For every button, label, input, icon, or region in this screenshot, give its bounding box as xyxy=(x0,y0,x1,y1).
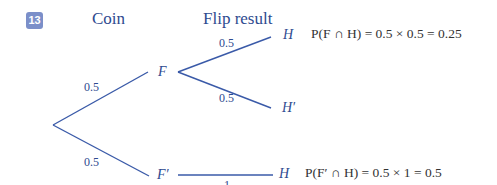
node-Hprime: H′ xyxy=(282,100,295,116)
prob-Fprime-H: 1 xyxy=(224,178,230,185)
prob-root-Fprime: 0.5 xyxy=(84,155,99,170)
equation-Fprime-and-H: P(F′ ∩ H) = 0.5 × 1 = 0.5 xyxy=(305,165,442,181)
equation-F-and-H: P(F ∩ H) = 0.5 × 0.5 = 0.25 xyxy=(311,26,462,42)
branch-root-to-F xyxy=(53,72,148,125)
prob-F-H: 0.5 xyxy=(219,36,234,51)
node-H-bottom: H xyxy=(279,166,289,182)
prob-F-Hprime: 0.5 xyxy=(219,91,234,106)
node-Fprime: F′ xyxy=(157,167,169,183)
node-F: F xyxy=(158,64,167,80)
node-H-top: H xyxy=(283,27,293,43)
branch-root-to-Fprime xyxy=(53,125,149,176)
prob-root-F: 0.5 xyxy=(84,80,99,95)
